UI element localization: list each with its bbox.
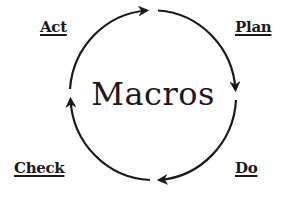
stage-label-do: Do: [235, 161, 257, 176]
stage-label-act: Act: [40, 20, 67, 35]
pdca-cycle-diagram: Act Plan Check Do Macros: [0, 0, 287, 197]
stage-label-plan: Plan: [235, 20, 271, 35]
center-title: Macros: [88, 78, 218, 110]
stage-label-check: Check: [14, 161, 64, 176]
